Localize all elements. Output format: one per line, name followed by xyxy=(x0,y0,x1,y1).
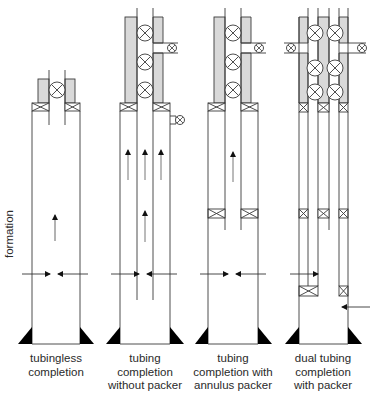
completion-dual-tubing-with-packer xyxy=(284,8,370,344)
caption-tubing-with-annulus-packer: tubing completion with annulus packer xyxy=(185,352,281,393)
wellhead-body-right xyxy=(65,79,75,103)
packer-icon xyxy=(32,103,80,111)
formation-label: formation xyxy=(3,210,15,258)
caption-dual-tubing-with-packer: dual tubing completion with packer xyxy=(275,352,371,393)
lower-packer-icon xyxy=(299,230,348,296)
completion-tubing-without-packer xyxy=(106,8,185,344)
annulus-packer-icon xyxy=(299,209,348,218)
well-completion-diagram xyxy=(0,0,373,400)
caption-tubingless: tubingless completion xyxy=(8,352,104,379)
valve-icon xyxy=(49,82,65,98)
wellhead-body-left xyxy=(38,79,49,103)
casing-shoe-icon xyxy=(18,327,32,344)
caption-tubing-without-packer: tubing completion without packer xyxy=(97,352,193,393)
completion-tubing-with-annulus-packer xyxy=(195,8,272,344)
packer-icon xyxy=(208,103,258,111)
packer-icon xyxy=(299,103,348,112)
packer-icon xyxy=(120,103,170,111)
annulus-packer-icon xyxy=(208,209,258,218)
completion-tubingless xyxy=(18,70,94,344)
